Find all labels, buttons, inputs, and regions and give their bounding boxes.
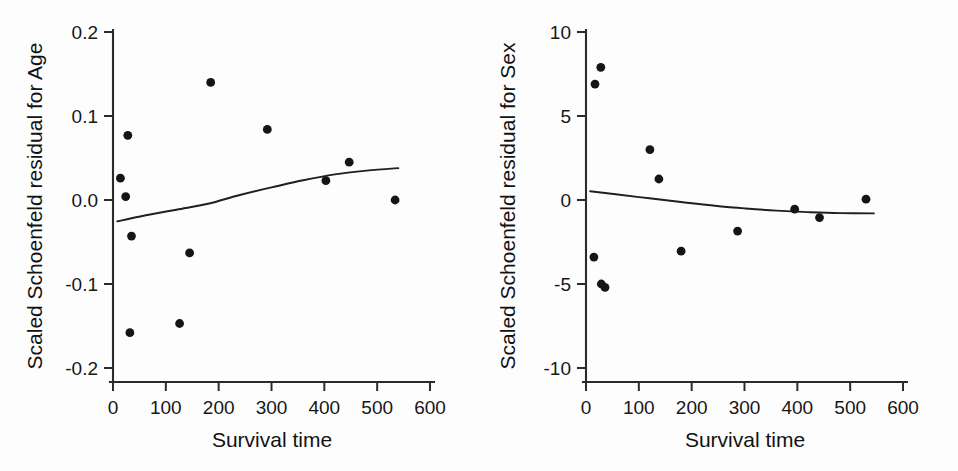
- y-tick-label-3: 0.1: [72, 106, 98, 127]
- x-tick-label-5: 500: [361, 397, 393, 418]
- data-points-age: [116, 78, 400, 337]
- data-point: [733, 227, 742, 236]
- y-axis-title-sex: Scaled Schoenfeld residual for Sex: [496, 42, 519, 369]
- data-point: [125, 328, 134, 337]
- data-point: [345, 158, 354, 167]
- x-tick-labels-age: 0100200300400500600: [108, 397, 446, 418]
- fit-curve-age: [117, 168, 398, 221]
- data-point: [601, 283, 610, 292]
- data-point: [121, 192, 130, 201]
- panel-left-age: -0.2-0.10.00.10.2 0100200300400500600 Sc…: [0, 0, 479, 471]
- data-point: [646, 145, 655, 154]
- y-tick-label-4: 0.2: [72, 22, 98, 43]
- scatter-plot-age: -0.2-0.10.00.10.2 0100200300400500600 Sc…: [0, 0, 479, 471]
- x-tick-label-5: 500: [834, 397, 866, 418]
- x-ticks-age: [113, 382, 430, 391]
- data-points-sex: [590, 63, 871, 292]
- x-tick-label-4: 400: [308, 397, 340, 418]
- data-point: [677, 247, 686, 256]
- y-axis-title-age: Scaled Schoenfeld residual for Age: [23, 43, 46, 370]
- x-tick-labels-sex: 0100200300400500600: [581, 397, 919, 418]
- data-point: [391, 196, 400, 205]
- data-point: [123, 131, 132, 140]
- data-point: [116, 174, 125, 183]
- data-point: [175, 319, 184, 328]
- x-tick-label-0: 0: [108, 397, 119, 418]
- y-tick-labels-age: -0.2-0.10.00.10.2: [65, 22, 98, 379]
- data-point: [127, 232, 136, 241]
- y-tick-label-4: 10: [550, 22, 571, 43]
- y-tick-labels-sex: -10-50510: [544, 22, 571, 379]
- y-ticks-sex: [577, 32, 586, 368]
- y-tick-label-2: 0.0: [72, 190, 98, 211]
- y-tick-label-1: -5: [554, 274, 571, 295]
- data-point: [206, 78, 215, 87]
- plot-axes-age: [110, 30, 434, 382]
- data-point: [263, 125, 272, 134]
- plot-axes-sex: [583, 30, 907, 382]
- y-tick-label-0: -10: [544, 358, 571, 379]
- x-axis-title-age: Survival time: [212, 428, 332, 451]
- data-point: [185, 249, 194, 258]
- figure-container: -0.2-0.10.00.10.2 0100200300400500600 Sc…: [0, 0, 958, 471]
- y-tick-label-0: -0.2: [65, 358, 98, 379]
- x-tick-label-3: 300: [729, 397, 761, 418]
- data-point: [862, 195, 871, 204]
- data-point: [655, 175, 664, 184]
- x-tick-label-1: 100: [150, 397, 182, 418]
- x-tick-label-2: 200: [676, 397, 708, 418]
- data-point: [815, 213, 824, 222]
- y-tick-label-2: 0: [560, 190, 571, 211]
- x-ticks-sex: [586, 382, 903, 391]
- x-tick-label-1: 100: [623, 397, 655, 418]
- x-tick-label-3: 300: [256, 397, 288, 418]
- panel-right-sex: -10-50510 0100200300400500600 Scaled Sch…: [479, 0, 958, 471]
- x-tick-label-6: 600: [887, 397, 919, 418]
- data-point: [590, 253, 599, 262]
- x-tick-label-4: 400: [781, 397, 813, 418]
- x-tick-label-6: 600: [414, 397, 446, 418]
- y-tick-label-3: 5: [560, 106, 571, 127]
- data-point: [322, 176, 331, 185]
- y-tick-label-1: -0.1: [65, 274, 98, 295]
- data-point: [591, 80, 600, 89]
- data-point: [596, 63, 605, 72]
- scatter-plot-sex: -10-50510 0100200300400500600 Scaled Sch…: [479, 0, 958, 471]
- x-axis-title-sex: Survival time: [685, 428, 805, 451]
- y-ticks-age: [104, 32, 113, 368]
- fit-curve-sex: [590, 191, 874, 213]
- x-tick-label-0: 0: [581, 397, 592, 418]
- data-point: [790, 205, 799, 214]
- x-tick-label-2: 200: [203, 397, 235, 418]
